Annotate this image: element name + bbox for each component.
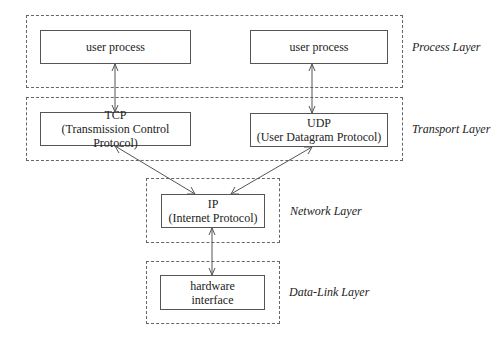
connector-arrows bbox=[0, 0, 498, 344]
